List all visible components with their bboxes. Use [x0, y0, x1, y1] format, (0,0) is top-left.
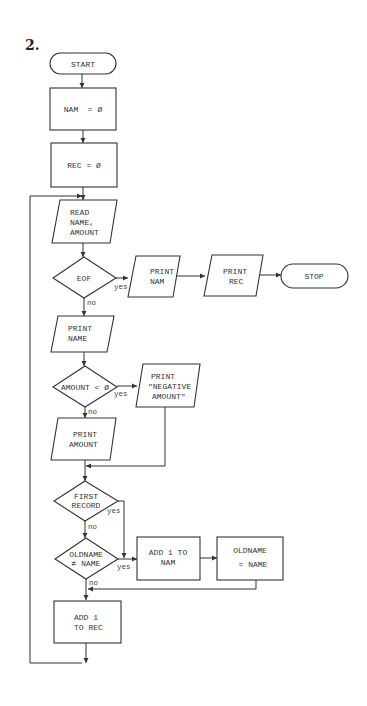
set-oldname-box: OLDNAME = NAME	[217, 537, 283, 580]
set-oldname-line-1: OLDNAME	[233, 546, 267, 555]
print-name-line-1: PRINT	[68, 324, 92, 333]
start-label: START	[71, 60, 95, 69]
start-terminal: START	[50, 53, 116, 74]
amount-negative-label: AMOUNT < Ø	[61, 383, 109, 392]
amount-no-label: no	[88, 408, 98, 416]
print-amount-line-1: PRINT	[73, 430, 97, 439]
oldname-ne-line-1: OLDNAME	[69, 550, 103, 559]
print-negative-line-3: AMOUNT"	[152, 392, 186, 401]
first-record-line-1: FIRST	[74, 492, 98, 501]
init-nam-label: NAM = Ø	[64, 105, 103, 114]
eof-decision: EOF	[53, 257, 116, 298]
add-rec-box: ADD 1 TO REC	[54, 601, 121, 643]
print-nam-output: PRINT NAM	[128, 256, 180, 297]
read-line-1: READ	[70, 208, 89, 217]
eof-label: EOF	[77, 274, 92, 283]
init-nam-box: NAM = Ø	[50, 88, 116, 130]
first-yes-label: yes	[107, 507, 121, 515]
eof-no-label: no	[87, 299, 97, 307]
print-negative-line-2: "NEGATIVE	[148, 382, 191, 391]
print-negative-line-1: PRINT	[151, 372, 175, 381]
print-rec-output: PRINT REC	[204, 255, 263, 296]
add-nam-line-1: ADD 1 TO	[149, 548, 188, 557]
print-name-output: PRINT NAME	[51, 316, 114, 352]
read-input: READ NAME, AMOUNT	[52, 200, 117, 243]
oldname-ne-line-2: ≠ NAME	[72, 559, 101, 568]
edge-oldname-merge	[88, 580, 256, 589]
print-amount-output: PRINT AMOUNT	[51, 418, 116, 460]
amount-yes-label: yes	[114, 390, 128, 398]
amount-negative-decision: AMOUNT < Ø	[53, 366, 117, 407]
stop-terminal: STOP	[281, 264, 348, 288]
add-nam-line-2: NAM	[161, 558, 176, 567]
read-line-3: AMOUNT	[70, 228, 99, 237]
first-no-label: no	[88, 523, 98, 531]
flowchart: 2. START NAM = Ø REC = Ø READ NAME, AMOU…	[0, 0, 367, 706]
set-oldname-line-2: = NAME	[239, 560, 268, 569]
init-rec-box: REC = Ø	[51, 143, 117, 187]
eof-yes-label: yes	[114, 283, 128, 291]
oldname-yes-label: yes	[117, 563, 131, 571]
print-negative-output: PRINT "NEGATIVE AMOUNT"	[136, 364, 200, 407]
figure-number: 2.	[25, 37, 40, 53]
init-rec-label: REC = Ø	[67, 161, 101, 170]
print-rec-line-1: PRINT	[223, 267, 247, 276]
print-nam-line-1: PRINT	[150, 267, 174, 276]
print-rec-line-2: REC	[229, 277, 244, 286]
oldname-not-equal-decision: OLDNAME ≠ NAME	[55, 538, 118, 579]
print-amount-line-2: AMOUNT	[69, 440, 98, 449]
print-nam-line-2: NAM	[150, 277, 165, 286]
oldname-no-label: no	[89, 579, 99, 587]
add-rec-line-1: ADD 1	[74, 613, 98, 622]
stop-label: STOP	[304, 272, 323, 281]
print-name-line-2: NAME	[68, 334, 87, 343]
first-record-decision: FIRST RECORD	[54, 481, 118, 521]
add-nam-box: ADD 1 TO NAM	[137, 537, 200, 580]
add-rec-line-2: TO REC	[74, 623, 103, 632]
read-line-2: NAME,	[70, 218, 94, 227]
first-record-line-2: RECORD	[72, 501, 101, 510]
